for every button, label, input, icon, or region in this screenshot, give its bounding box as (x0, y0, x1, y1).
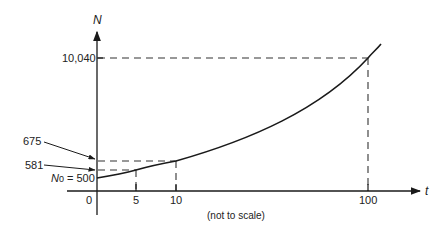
growth-chart (0, 0, 447, 229)
scale-note: (not to scale) (207, 210, 265, 222)
x-tick-label-0: 0 (86, 194, 92, 206)
n0-value: = 500 (64, 172, 95, 184)
x-axis-label: t (425, 185, 428, 197)
y-callout-label-675: 675 (23, 135, 41, 147)
x-tick-label-100: 100 (359, 194, 377, 206)
growth-curve (97, 44, 381, 178)
callout-arrow-675 (44, 142, 95, 159)
y-tick-label-10040: 10,040 (62, 52, 96, 64)
x-tick-label-10: 10 (170, 194, 182, 206)
callout-arrow-581 (44, 165, 95, 170)
n0-symbol: N (51, 172, 59, 184)
y-tick-label-n0: N0 = 500 (51, 172, 95, 185)
x-tick-label-5: 5 (133, 194, 139, 206)
dashed-guides (98, 58, 368, 191)
y-axis-label: N (93, 14, 102, 26)
y-callout-label-581: 581 (25, 159, 43, 171)
x-ticks (136, 184, 368, 191)
